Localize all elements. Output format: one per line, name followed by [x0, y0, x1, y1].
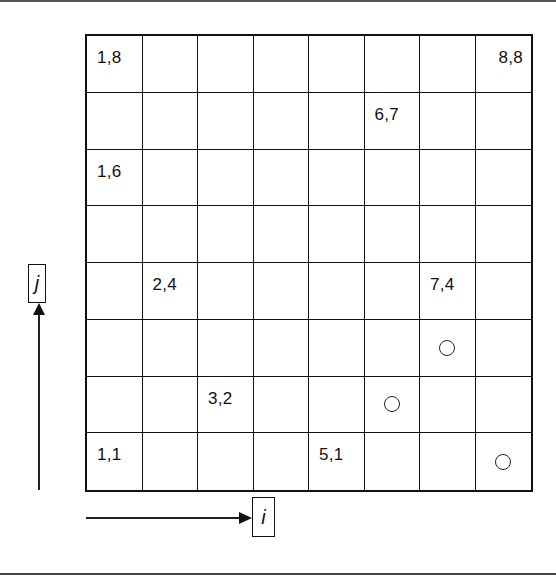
grid-cell-1-4	[87, 263, 143, 320]
grid-cell-3-2: 3,2	[198, 377, 254, 434]
top-rule	[0, 0, 556, 2]
grid-cell-4-1	[254, 433, 310, 490]
grid-cell-4-4	[254, 263, 310, 320]
grid-cell-5-3	[309, 320, 365, 377]
grid-cell-6-6	[365, 150, 421, 207]
arrow-up-icon	[33, 303, 45, 315]
cell-label: 1,1	[97, 445, 122, 465]
cell-label: 5,1	[319, 445, 344, 465]
grid-cell-5-8	[309, 36, 365, 93]
cell-label: 6,7	[375, 105, 400, 125]
grid-cell-6-5	[365, 206, 421, 263]
grid-cell-7-5	[420, 206, 476, 263]
grid-cell-1-3	[87, 320, 143, 377]
grid-cell-5-4	[309, 263, 365, 320]
grid-cell-1-1: 1,1	[87, 433, 143, 490]
grid-cell-3-8	[198, 36, 254, 93]
grid-cell-5-5	[309, 206, 365, 263]
circle-icon	[495, 454, 511, 470]
grid-cell-8-7	[476, 93, 532, 150]
grid-cell-4-3	[254, 320, 310, 377]
grid-cell-8-8: 8,8	[476, 36, 532, 93]
grid-cell-3-7	[198, 93, 254, 150]
grid-cell-8-3	[476, 320, 532, 377]
grid-cell-1-8: 1,8	[87, 36, 143, 93]
grid-cell-7-4: 7,4	[420, 263, 476, 320]
grid-cell-7-8	[420, 36, 476, 93]
grid-cell-2-7	[143, 93, 199, 150]
grid-cell-8-2	[476, 377, 532, 434]
grid-cell-1-5	[87, 206, 143, 263]
grid-cell-2-1	[143, 433, 199, 490]
grid-cell-1-6: 1,6	[87, 150, 143, 207]
grid-cell-5-6	[309, 150, 365, 207]
arrow-right-icon	[239, 512, 252, 524]
grid-cell-4-2	[254, 377, 310, 434]
cell-label: 1,8	[97, 48, 122, 68]
grid-cell-2-5	[143, 206, 199, 263]
grid-cell-4-6	[254, 150, 310, 207]
grid-cell-6-8	[365, 36, 421, 93]
circle-icon	[439, 340, 455, 356]
grid-cell-7-3	[420, 320, 476, 377]
cell-label: 2,4	[153, 275, 178, 295]
index-grid: 1,88,86,71,62,47,43,21,15,1	[85, 34, 533, 492]
circle-icon	[384, 396, 400, 412]
grid-cell-5-2	[309, 377, 365, 434]
i-axis-label: i	[252, 497, 275, 537]
j-axis-label: j	[28, 264, 46, 303]
grid-cell-6-3	[365, 320, 421, 377]
grid-cell-2-4: 2,4	[143, 263, 199, 320]
j-axis-arrow-line	[38, 314, 40, 490]
grid-cell-4-5	[254, 206, 310, 263]
i-axis-arrow-line	[86, 517, 240, 519]
grid-cell-7-1	[420, 433, 476, 490]
cell-label: 3,2	[208, 389, 233, 409]
grid-cell-1-7	[87, 93, 143, 150]
grid-cell-2-3	[143, 320, 199, 377]
grid-cell-2-6	[143, 150, 199, 207]
grid-cell-6-1	[365, 433, 421, 490]
grid-cell-3-5	[198, 206, 254, 263]
grid-cell-7-2	[420, 377, 476, 434]
grid-cell-3-1	[198, 433, 254, 490]
grid-cell-4-8	[254, 36, 310, 93]
grid-cell-2-2	[143, 377, 199, 434]
grid-cell-4-7	[254, 93, 310, 150]
grid-cell-8-4	[476, 263, 532, 320]
grid-cell-5-7	[309, 93, 365, 150]
grid-cell-3-6	[198, 150, 254, 207]
grid-cell-7-7	[420, 93, 476, 150]
grid-cell-6-7: 6,7	[365, 93, 421, 150]
grid-cell-8-5	[476, 206, 532, 263]
grid-cell-8-1	[476, 433, 532, 490]
grid-cell-3-4	[198, 263, 254, 320]
grid-cell-6-4	[365, 263, 421, 320]
cell-label: 8,8	[498, 48, 523, 68]
grid-cell-5-1: 5,1	[309, 433, 365, 490]
cell-label: 1,6	[97, 162, 122, 182]
bottom-rule	[0, 573, 556, 575]
grid-cell-6-2	[365, 377, 421, 434]
grid-cell-2-8	[143, 36, 199, 93]
grid-cell-1-2	[87, 377, 143, 434]
grid-cell-8-6	[476, 150, 532, 207]
grid-cell-7-6	[420, 150, 476, 207]
grid-cell-3-3	[198, 320, 254, 377]
cell-label: 7,4	[430, 275, 455, 295]
